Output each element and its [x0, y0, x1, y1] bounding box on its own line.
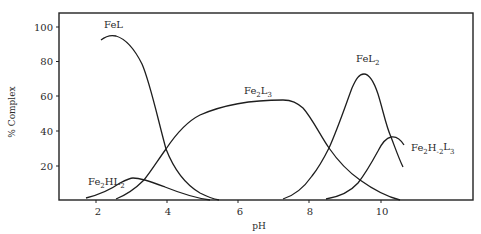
species-distribution-chart: 100 80 60 40 20 % Complex 2 4 6 8 10 pH … [0, 0, 481, 234]
y-tick-20: 20 [40, 161, 53, 172]
curve-labels: FeL Fe2HL2 Fe2L3 FeL2 Fe2H-2L3 [88, 19, 454, 190]
curve-fe2h-2l3 [326, 137, 404, 199]
y-axis: 100 80 60 40 20 % Complex [7, 22, 59, 172]
label-fe2h-2l3: Fe2H-2L3 [411, 141, 454, 156]
x-tick-4: 4 [165, 206, 171, 217]
x-axis: 2 4 6 8 10 pH [95, 200, 389, 231]
label-fel2: FeL2 [356, 53, 379, 67]
plot-frame [59, 13, 473, 200]
x-tick-8: 8 [307, 206, 313, 217]
x-tick-2: 2 [95, 206, 101, 217]
y-tick-100: 100 [34, 22, 53, 33]
y-axis-title: % Complex [7, 86, 17, 137]
y-tick-80: 80 [40, 56, 53, 67]
x-tick-10: 10 [376, 206, 389, 217]
label-fel: FeL [104, 19, 123, 30]
label-fe2l3: Fe2L3 [244, 85, 272, 99]
label-fe2hl2: Fe2HL2 [88, 176, 125, 190]
x-tick-6: 6 [237, 206, 243, 217]
curve-fel2 [283, 74, 403, 199]
x-axis-title: pH [252, 221, 266, 231]
y-tick-60: 60 [40, 91, 53, 102]
y-tick-40: 40 [40, 126, 53, 137]
